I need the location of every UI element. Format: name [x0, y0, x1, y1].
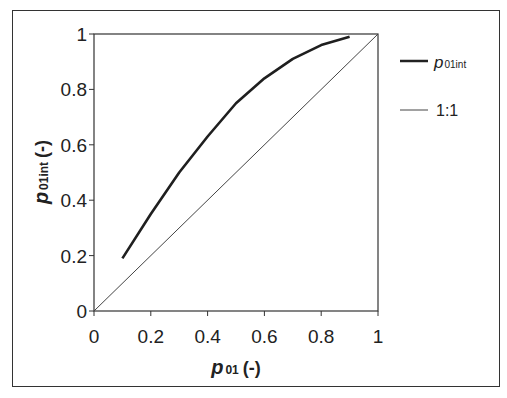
y-tick-label: 0.8 — [61, 79, 87, 100]
series-line-p01int — [122, 37, 349, 259]
series-line-1to1 — [94, 34, 378, 311]
x-tick-label: 1 — [373, 326, 384, 347]
legend: p01int 1:1 — [400, 53, 466, 119]
y-tick-label: 0.6 — [61, 135, 87, 156]
x-tick-label: 0.2 — [138, 326, 164, 347]
y-tick-label: 0.2 — [61, 246, 87, 267]
y-tick-label: 0 — [76, 301, 87, 322]
y-tick-label: 1 — [76, 24, 87, 45]
chart: 00.20.40.60.81 00.20.40.60.81 p01(-) p01… — [0, 0, 507, 398]
x-axis-label: p01(-) — [210, 356, 261, 378]
x-tick-label: 0 — [89, 326, 100, 347]
y-axis-label: p01int(-) — [30, 140, 52, 205]
x-tick-label: 0.4 — [194, 326, 221, 347]
x-tick-label: 0.6 — [251, 326, 277, 347]
y-tick-label: 0.4 — [61, 190, 88, 211]
x-tick-label: 0.8 — [308, 326, 334, 347]
legend-label-p01int: p01int — [433, 53, 466, 72]
legend-label-1to1: 1:1 — [436, 102, 458, 119]
